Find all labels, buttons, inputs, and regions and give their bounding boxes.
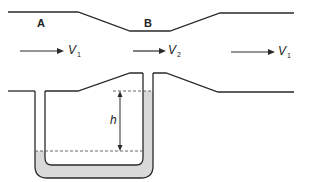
pipe-bottom-wall-mid-left xyxy=(45,73,143,91)
label-height: h xyxy=(110,113,117,127)
label-velocity-outlet: V1 xyxy=(278,44,291,58)
label-section-a: A xyxy=(37,17,45,29)
label-velocity-inlet: V1 xyxy=(68,43,81,57)
arrowhead-down-icon xyxy=(118,145,123,151)
arrowhead-right-icon xyxy=(159,48,166,54)
manometer-outer-wall xyxy=(35,73,153,178)
arrowhead-right-icon xyxy=(57,48,64,54)
pipe-bottom-wall-right xyxy=(153,73,294,92)
arrowhead-up-icon xyxy=(118,91,123,97)
manometer-inner-wall xyxy=(45,73,143,165)
arrowhead-right-icon xyxy=(268,49,275,55)
label-velocity-throat: V2 xyxy=(168,43,181,57)
label-section-b: B xyxy=(144,17,152,29)
